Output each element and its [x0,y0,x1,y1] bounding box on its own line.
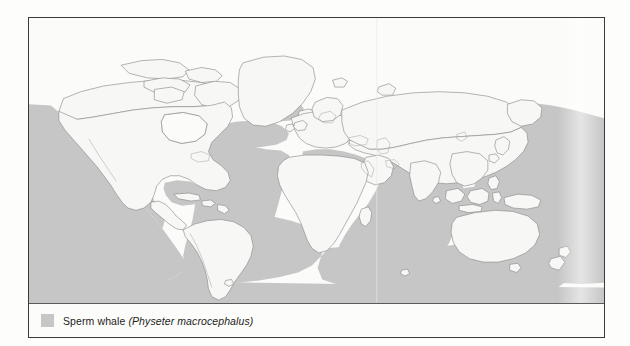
land-java [459,205,482,213]
legend: Sperm whale (Physeter macrocephalus) [29,303,604,337]
land-borneo [467,188,489,204]
legend-swatch-range [41,314,54,327]
scan-fold-line [376,18,377,303]
world-map-svg [29,18,604,303]
legend-common-name: Sperm whale [63,315,125,327]
legend-label: Sperm whale (Physeter macrocephalus) [63,315,253,327]
distribution-map-figure: Sperm whale (Physeter macrocephalus) [28,17,605,338]
world-map [29,18,604,303]
legend-scientific-name: (Physeter macrocephalus) [128,315,253,327]
